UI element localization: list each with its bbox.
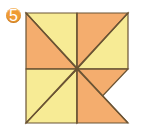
exercise-number-badge: 5 bbox=[6, 8, 21, 23]
exercise-number-badge-label: 5 bbox=[9, 8, 18, 24]
figure-canvas: 5 bbox=[0, 0, 145, 132]
pinwheel-figure bbox=[0, 0, 145, 132]
